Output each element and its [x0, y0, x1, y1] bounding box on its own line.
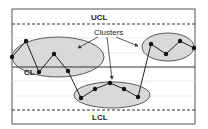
data-point	[10, 55, 14, 59]
ucl-label: UCL	[91, 13, 108, 22]
lcl-label: LCL	[92, 113, 108, 122]
data-point	[24, 39, 28, 43]
data-point	[37, 70, 41, 74]
data-point	[178, 39, 182, 43]
data-point	[149, 42, 153, 46]
data-point	[52, 52, 56, 56]
data-point	[192, 46, 196, 50]
data-point	[136, 95, 140, 99]
data-point	[79, 96, 83, 100]
data-point	[164, 52, 168, 56]
cl-label: CL	[24, 68, 35, 77]
clusters-label: Clusters	[94, 28, 123, 37]
data-point	[108, 81, 112, 85]
data-point	[122, 87, 126, 91]
data-point	[66, 69, 70, 73]
control-chart-diagram: UCL Clusters CL LCL	[0, 0, 208, 129]
data-point	[93, 87, 97, 91]
